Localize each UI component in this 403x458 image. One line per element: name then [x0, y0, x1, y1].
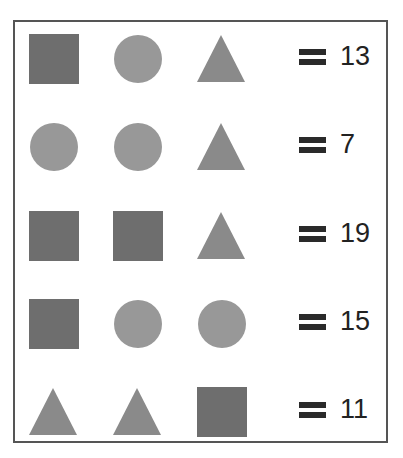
equals-sign: [299, 226, 326, 246]
circle-icon: [114, 123, 162, 171]
square-icon: [29, 34, 79, 84]
square-icon: [113, 211, 163, 261]
equation-row: 19: [0, 206, 403, 266]
equation-row: 7: [0, 117, 403, 177]
circle-icon: [30, 123, 78, 171]
triangle-icon: [197, 123, 245, 170]
equals-sign: [299, 137, 326, 157]
equation-row: 11: [0, 382, 403, 442]
square-icon: [29, 211, 79, 261]
equation-row: 15: [0, 294, 403, 354]
triangle-icon: [197, 212, 245, 259]
equals-sign: [299, 49, 326, 69]
row-value: 7: [340, 129, 355, 160]
row-value: 13: [340, 41, 370, 72]
circle-icon: [198, 300, 246, 348]
triangle-icon: [113, 388, 161, 435]
triangle-icon: [29, 388, 77, 435]
square-icon: [29, 299, 79, 349]
row-value: 11: [340, 394, 368, 425]
equation-row: 13: [0, 29, 403, 89]
triangle-icon: [197, 35, 245, 82]
equals-sign: [299, 314, 326, 334]
circle-icon: [114, 35, 162, 83]
row-value: 15: [340, 306, 370, 337]
circle-icon: [114, 300, 162, 348]
equals-sign: [299, 402, 326, 422]
row-value: 19: [340, 218, 370, 249]
square-icon: [197, 387, 247, 437]
